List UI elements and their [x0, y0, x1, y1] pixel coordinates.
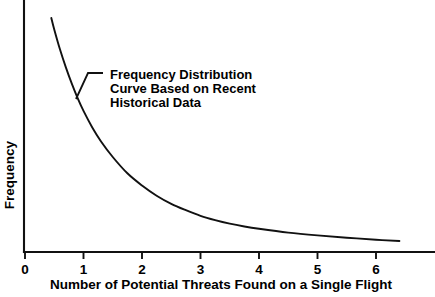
frequency-distribution-chart: 0 1 2 3 4 5 6 Frequency Distribution Cur… — [0, 0, 435, 297]
y-axis-title: Frequency — [2, 140, 17, 209]
chart-canvas: 0 1 2 3 4 5 6 Frequency Distribution Cur… — [0, 0, 435, 297]
callout-annotation: Frequency Distribution Curve Based on Re… — [110, 67, 257, 110]
x-tick-label-3: 3 — [197, 262, 205, 277]
x-tick-label-6: 6 — [372, 262, 380, 277]
x-tick-label-2: 2 — [138, 262, 146, 277]
x-axis-title: Number of Potential Threats Found on a S… — [50, 277, 393, 292]
callout-line-1: Frequency Distribution — [110, 67, 252, 82]
x-tick-label-0: 0 — [21, 262, 29, 277]
x-axis-tick-labels: 0 1 2 3 4 5 6 — [21, 262, 380, 277]
callout-line-3: Historical Data — [110, 95, 202, 110]
axes-group — [24, 0, 435, 252]
x-tick-label-4: 4 — [255, 262, 263, 277]
callout-leader-line — [76, 73, 103, 99]
callout-line-2: Curve Based on Recent — [110, 81, 257, 96]
frequency-distribution-curve — [51, 18, 399, 241]
x-tick-label-1: 1 — [80, 262, 88, 277]
x-tick-label-5: 5 — [314, 262, 322, 277]
